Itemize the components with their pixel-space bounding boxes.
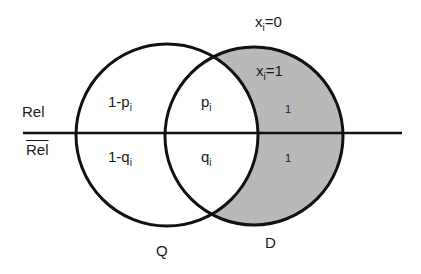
not-rel-label: Rel — [26, 142, 49, 157]
rel-label: Rel — [22, 104, 45, 119]
overlap-rel-label: pi — [201, 94, 212, 109]
d-only-shaded-region — [76, 44, 343, 226]
q-set-label: Q — [156, 243, 168, 258]
d-only-notrel-label: 1 — [285, 153, 291, 164]
q-only-notrel-label: 1-qi — [108, 149, 132, 164]
d-set-label: D — [265, 235, 276, 250]
xi-equals-0-label: xi=0 — [255, 14, 282, 29]
xi-equals-1-label: xi=1 — [256, 63, 283, 78]
venn-diagram — [0, 0, 421, 274]
q-only-rel-label: 1-pi — [108, 94, 132, 109]
d-only-rel-label: 1 — [285, 104, 291, 115]
overlap-notrel-label: qi — [201, 149, 212, 164]
